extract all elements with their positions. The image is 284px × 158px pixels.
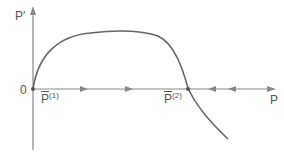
equilibrium-label-2: P(2) (164, 93, 182, 105)
equilibrium-point-2 (186, 87, 190, 91)
phase-diagram: P′ P 0 P(1) P(2) (0, 0, 284, 158)
equilibrium-label-2-sup: (2) (172, 91, 182, 100)
y-axis-arrowhead-icon (30, 6, 36, 15)
origin-label: 0 (20, 84, 27, 96)
equilibrium-label-1-base: P (41, 92, 49, 106)
equilibrium-label-1: P(1) (41, 93, 59, 105)
flow-arrow-left-icon (208, 86, 216, 92)
flow-arrow-left-icon (228, 86, 236, 92)
equilibrium-label-1-sup: (1) (49, 91, 59, 100)
y-axis-label: P′ (15, 10, 25, 22)
x-axis-label: P (270, 94, 278, 106)
equilibrium-label-2-base: P (164, 92, 172, 106)
diagram-canvas (0, 0, 284, 158)
x-axis-arrowhead-icon (267, 86, 276, 92)
flow-arrow-right-icon (80, 86, 88, 92)
equilibrium-point-1 (31, 87, 35, 91)
flow-arrow-right-icon (125, 86, 133, 92)
growth-curve (33, 31, 228, 139)
